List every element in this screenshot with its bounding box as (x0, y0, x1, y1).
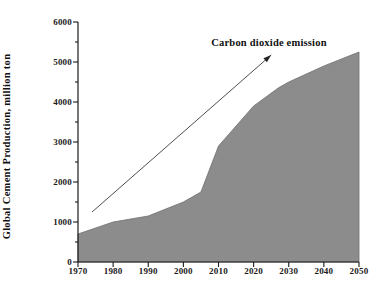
x-tick-label-2000: 2000 (174, 266, 193, 276)
x-tick-label-2020: 2020 (244, 266, 263, 276)
y-tick-label-0: 0 (34, 257, 72, 267)
y-tick-label-6000: 6000 (34, 17, 72, 27)
chart-figure: Global Cement Production, million ton Ca… (0, 0, 382, 299)
y-tick-label-3000: 3000 (34, 137, 72, 147)
x-tick-label-2050: 2050 (350, 266, 369, 276)
annotation-label-carbon-dioxide-emission: Carbon dioxide emission (211, 37, 326, 48)
x-tick-label-1980: 1980 (104, 266, 123, 276)
x-tick-label-2040: 2040 (314, 266, 333, 276)
x-tick-label-2010: 2010 (209, 266, 228, 276)
y-tick-label-4000: 4000 (34, 97, 72, 107)
y-tick-label-1000: 1000 (34, 217, 72, 227)
y-axis-title: Global Cement Production, million ton (1, 54, 12, 240)
x-tick-label-1990: 1990 (139, 266, 158, 276)
y-tick-label-2000: 2000 (34, 177, 72, 187)
x-tick-label-2030: 2030 (279, 266, 298, 276)
x-tick-label-1970: 1970 (69, 266, 88, 276)
y-tick-label-5000: 5000 (34, 57, 72, 67)
